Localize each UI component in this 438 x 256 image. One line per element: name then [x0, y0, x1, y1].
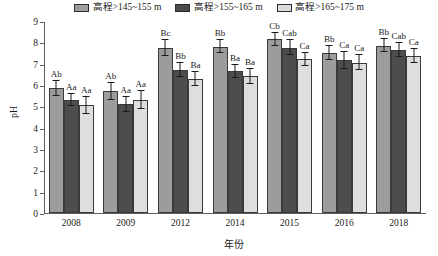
bar-group: BbCabCa2018: [371, 22, 426, 213]
y-axis-label: pH: [8, 106, 19, 118]
legend-label-2: 高程>165~175 m: [295, 3, 364, 13]
error-bar: [195, 72, 196, 86]
bar[interactable]: [322, 53, 337, 213]
x-axis-tick-label: 2009: [99, 218, 154, 228]
error-bar-cap-bottom: [247, 83, 254, 84]
error-bar-cap-top: [356, 54, 363, 55]
bar[interactable]: [391, 50, 406, 213]
error-bar-cap-top: [395, 42, 402, 43]
bar-slot: Ba: [188, 22, 203, 213]
x-axis-label: 年份: [194, 239, 244, 250]
bar[interactable]: [103, 91, 118, 213]
x-axis-tick-label: 2008: [44, 218, 99, 228]
error-bar-cap-bottom: [162, 55, 169, 56]
error-bar: [398, 43, 399, 57]
bar[interactable]: [173, 70, 188, 213]
error-bar-cap-bottom: [122, 111, 129, 112]
bar[interactable]: [158, 48, 173, 213]
significance-label: Aa: [136, 80, 147, 89]
bar[interactable]: [118, 104, 133, 213]
legend-swatch-icon-1: [175, 4, 190, 12]
bar-slot: Ca: [406, 22, 421, 213]
bar[interactable]: [79, 105, 94, 213]
x-axis-tick-label: 2012: [153, 218, 208, 228]
error-bar: [329, 46, 330, 61]
bar-slot: Ca: [337, 22, 352, 213]
legend-item-1: 高程>155~165 m: [175, 3, 262, 13]
error-bar-cap-top: [122, 96, 129, 97]
bar[interactable]: [64, 100, 79, 213]
x-axis-tick-label: 2018: [371, 218, 426, 228]
significance-label: Ab: [105, 72, 116, 81]
bar-group: AbAaAa2008: [44, 22, 99, 213]
bar-group: BcBbBa2012: [153, 22, 208, 213]
y-axis-tick-label: 9: [33, 17, 38, 27]
error-bar-cap-top: [53, 80, 60, 81]
significance-label: Ca: [300, 42, 310, 51]
bar-slot: Cab: [391, 22, 406, 213]
significance-label: Cb: [269, 22, 280, 31]
error-bar-cap-top: [286, 39, 293, 40]
legend-swatch-icon-2: [277, 4, 292, 12]
significance-label: Ca: [409, 38, 419, 47]
bar[interactable]: [188, 79, 203, 213]
bar[interactable]: [406, 56, 421, 213]
bar[interactable]: [243, 76, 258, 213]
bar[interactable]: [213, 47, 228, 213]
significance-label: Aa: [81, 86, 92, 95]
bar-slot: Bb: [376, 22, 391, 213]
bar[interactable]: [297, 59, 312, 213]
bar-slot: Bb: [173, 22, 188, 213]
error-bar-cap-bottom: [341, 68, 348, 69]
bar[interactable]: [228, 71, 243, 213]
y-axis-tick-label: 6: [33, 81, 38, 91]
bar[interactable]: [376, 46, 391, 213]
bar[interactable]: [49, 88, 64, 213]
bar-slot: Bb: [322, 22, 337, 213]
bar[interactable]: [267, 39, 282, 213]
y-axis-tick-label: 4: [33, 124, 38, 134]
error-bar-cap-bottom: [177, 76, 184, 77]
error-bar-cap-top: [68, 93, 75, 94]
significance-label: Bb: [215, 29, 226, 38]
plot-area: 0123456789 AbAaAa2008AbAaAa2009BcBbBa201…: [44, 22, 426, 214]
bar-slot: Ca: [352, 22, 367, 213]
error-bar-cap-bottom: [271, 45, 278, 46]
error-bar-cap-top: [217, 39, 224, 40]
significance-label: Ba: [190, 61, 200, 70]
bar[interactable]: [282, 48, 297, 213]
bar-slot: Ab: [49, 22, 64, 213]
error-bar: [344, 52, 345, 68]
bar[interactable]: [352, 63, 367, 213]
bar-group: BbBaBa2014: [208, 22, 263, 213]
error-bar-cap-top: [326, 45, 333, 46]
legend-item-0: 高程>145~155 m: [74, 3, 161, 13]
significance-label: Bb: [378, 28, 389, 37]
error-bar: [359, 55, 360, 70]
legend-swatch-icon-0: [74, 4, 89, 12]
x-axis-tick-label: 2016: [317, 218, 372, 228]
bar-slot: Aa: [79, 22, 94, 213]
error-bar: [165, 40, 166, 56]
error-bar-cap-top: [271, 32, 278, 33]
bar-slot: Ba: [243, 22, 258, 213]
bar-slot: Cb: [267, 22, 282, 213]
significance-label: Ab: [51, 70, 62, 79]
bar[interactable]: [337, 60, 352, 213]
chart-legend: 高程>145~155 m 高程>155~165 m 高程>165~175 m: [0, 3, 438, 13]
error-bar-cap-bottom: [301, 65, 308, 66]
error-bar: [56, 81, 57, 96]
y-axis-tick-label: 1: [33, 188, 38, 198]
bar-slot: Aa: [118, 22, 133, 213]
significance-label: Bb: [324, 35, 335, 44]
significance-label: Bb: [175, 52, 186, 61]
x-axis-line: [44, 213, 426, 214]
legend-label-0: 高程>145~155 m: [93, 3, 162, 13]
error-bar-cap-bottom: [380, 51, 387, 52]
error-bar-cap-top: [107, 82, 114, 83]
significance-label: Ba: [245, 58, 255, 67]
error-bar: [220, 40, 221, 54]
bar[interactable]: [133, 100, 148, 213]
bar-groups: AbAaAa2008AbAaAa2009BcBbBa2012BbBaBa2014…: [44, 22, 426, 213]
error-bar: [304, 53, 305, 67]
